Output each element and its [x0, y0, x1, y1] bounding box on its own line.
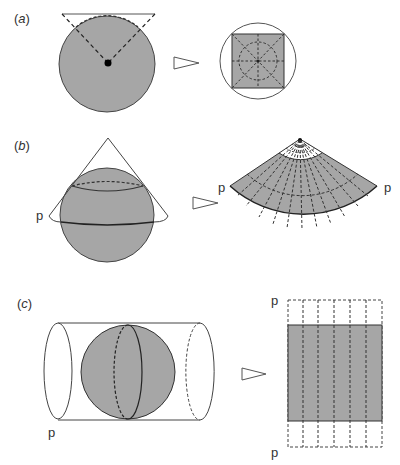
point-label-p: p — [271, 293, 278, 308]
map-projections-diagram: (a) (b) — [0, 0, 400, 465]
hollow-triangle-arrow-icon — [242, 368, 266, 380]
cone-base-left — [49, 216, 61, 222]
point-label-p: p — [271, 445, 278, 460]
panel-b-label: (b) — [14, 138, 30, 153]
point-label-p: p — [48, 425, 55, 440]
panel-b: (b) p — [14, 138, 391, 262]
cylinder-right-end-front — [200, 323, 214, 420]
result-rectangle — [288, 325, 382, 421]
graticule-centre — [257, 60, 260, 63]
panel-a: (a) — [14, 11, 296, 112]
cylinder-left-end — [44, 323, 72, 419]
hollow-triangle-arrow-icon — [174, 57, 199, 69]
hollow-triangle-arrow-icon — [193, 197, 218, 209]
cylinder-right-end-back — [186, 323, 200, 420]
planar-projection-result — [220, 23, 296, 99]
conic-projection-result — [230, 138, 377, 230]
panel-c-label: (c) — [17, 296, 32, 311]
point-label-p: p — [36, 208, 43, 223]
cylindrical-projection-result — [288, 300, 382, 447]
panel-c: (c) p p p — [17, 293, 382, 460]
centre-point — [105, 60, 112, 67]
panel-a-label: (a) — [14, 11, 30, 26]
point-label-p: p — [218, 180, 225, 195]
cone-base-right — [154, 216, 168, 222]
point-label-p: p — [384, 180, 391, 195]
sphere-c — [81, 325, 175, 419]
